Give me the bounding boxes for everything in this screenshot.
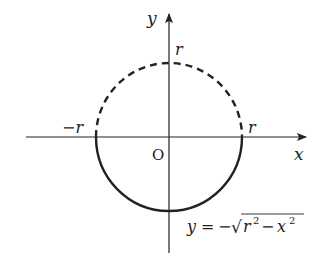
eq-x: x: [277, 217, 286, 236]
x-axis-label: x: [294, 144, 304, 164]
eq-equals: =: [201, 217, 214, 236]
equation-label: y = − √ r 2 − x 2: [186, 214, 304, 237]
eq-r: r: [243, 217, 252, 236]
eq-r-exp: 2: [253, 215, 259, 226]
x-tick-neg-r: −r: [62, 118, 84, 137]
x-tick-r: r: [248, 118, 257, 137]
origin-label: O: [152, 146, 164, 164]
eq-x-exp: 2: [289, 215, 295, 226]
eq-y: y: [186, 217, 197, 236]
eq-sqrt: √: [231, 217, 242, 237]
eq-inner-minus: −: [261, 217, 274, 236]
y-axis-label: y: [146, 8, 157, 28]
semicircle-diagram: y x O r r −r y = − √ r 2 − x 2: [0, 0, 327, 265]
y-tick-r: r: [175, 40, 184, 59]
eq-minus: −: [218, 217, 231, 236]
